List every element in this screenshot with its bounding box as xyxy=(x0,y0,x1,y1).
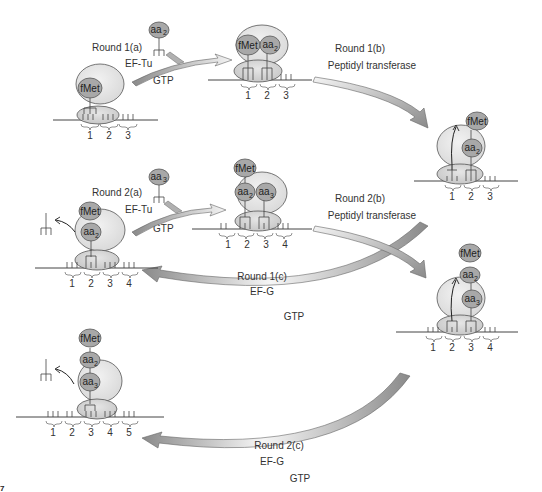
svg-text:fMet: fMet xyxy=(235,163,255,174)
round-2b-label: Round 2(b) xyxy=(335,193,385,204)
svg-text:2: 2 xyxy=(95,232,99,239)
svg-text:2: 2 xyxy=(274,45,278,52)
state-7-translocated: fMet aa 2 aa 3 1 2 3 4 5 xyxy=(16,329,164,438)
svg-text:1: 1 xyxy=(225,239,231,250)
ef-tu-label: EF-Tu xyxy=(125,58,152,69)
svg-text:3: 3 xyxy=(283,90,289,101)
codon-number: 1 xyxy=(87,130,93,141)
ef-tu-label: EF-Tu xyxy=(125,204,152,215)
svg-text:aa: aa xyxy=(464,293,476,304)
round-2c-step: Round 2(c) EF-G GTP xyxy=(142,373,410,484)
round-1a-label: Round 1(a) xyxy=(92,42,142,53)
peptidyl-transferase-label: Peptidyl transferase xyxy=(328,60,417,71)
released-trna xyxy=(41,359,74,384)
round-1c-label: Round 1(c) xyxy=(237,271,286,282)
svg-text:fMet: fMet xyxy=(238,40,258,51)
codon-number: 2 xyxy=(106,130,112,141)
svg-text:1: 1 xyxy=(430,342,436,353)
peptidyl-transferase-label: Peptidyl transferase xyxy=(328,210,417,221)
released-trna xyxy=(41,213,75,235)
svg-text:fMet: fMet xyxy=(467,116,487,127)
svg-text:2: 2 xyxy=(468,191,474,202)
svg-text:aa: aa xyxy=(150,24,162,35)
svg-text:2: 2 xyxy=(264,90,270,101)
svg-text:3: 3 xyxy=(487,191,493,202)
svg-text:fMet: fMet xyxy=(460,248,480,259)
svg-text:2: 2 xyxy=(69,427,75,438)
svg-text:aa: aa xyxy=(262,39,274,50)
arrow-round-2c xyxy=(142,373,410,448)
arrow-round-1b xyxy=(313,77,428,128)
svg-text:aa: aa xyxy=(462,269,474,280)
state-4-translocated: fMet aa 2 1 2 3 4 xyxy=(35,202,158,289)
svg-text:2: 2 xyxy=(249,192,253,199)
round-1b-label: Round 1(b) xyxy=(335,43,385,54)
svg-text:1: 1 xyxy=(449,191,455,202)
svg-text:aa: aa xyxy=(83,226,95,237)
svg-text:aa: aa xyxy=(82,354,94,365)
svg-text:3: 3 xyxy=(263,239,269,250)
svg-text:5: 5 xyxy=(126,427,132,438)
ribosome-small-subunit xyxy=(234,60,282,82)
svg-text:2: 2 xyxy=(163,29,167,36)
fmet-label: fMet xyxy=(80,83,100,94)
svg-text:3: 3 xyxy=(163,176,167,183)
svg-text:fMet: fMet xyxy=(80,333,100,344)
ef-g-label: EF-G xyxy=(250,286,274,297)
svg-text:3: 3 xyxy=(270,192,274,199)
state-3-peptide-bond-formed: fMet aa 2 1 2 3 xyxy=(414,112,518,202)
svg-text:3: 3 xyxy=(107,278,113,289)
svg-text:aa: aa xyxy=(150,171,162,182)
ribosome-small-subunit xyxy=(77,399,117,419)
svg-text:3: 3 xyxy=(476,299,480,306)
ribosome-small-subunit xyxy=(235,211,281,231)
svg-text:2: 2 xyxy=(244,239,250,250)
ef-g-label: EF-G xyxy=(260,456,284,467)
svg-text:aa: aa xyxy=(464,142,476,153)
svg-text:4: 4 xyxy=(126,278,132,289)
round-2a-label: Round 2(a) xyxy=(92,187,142,198)
ribosome-small-subunit xyxy=(75,250,119,270)
svg-text:3: 3 xyxy=(468,342,474,353)
svg-text:1: 1 xyxy=(245,90,251,101)
svg-text:aa: aa xyxy=(82,376,94,387)
gtp-label: GTP xyxy=(290,473,311,484)
svg-text:3: 3 xyxy=(94,382,98,389)
svg-text:2: 2 xyxy=(94,360,98,367)
state-1-initiation-complex: fMet 1 2 3 xyxy=(53,64,158,141)
translation-elongation-diagram: fMet 1 2 3 Round 1(a) EF-Tu GTP aa 2 xyxy=(0,0,542,492)
svg-text:aa: aa xyxy=(237,186,249,197)
svg-text:2: 2 xyxy=(474,275,478,282)
svg-text:3: 3 xyxy=(88,427,94,438)
gtp-label: GTP xyxy=(284,311,305,322)
svg-text:1: 1 xyxy=(50,427,56,438)
svg-text:4: 4 xyxy=(282,239,288,250)
codon-number: 3 xyxy=(125,130,131,141)
svg-text:2: 2 xyxy=(88,278,94,289)
svg-text:1: 1 xyxy=(69,278,75,289)
svg-text:fMet: fMet xyxy=(80,206,100,217)
round-1b-step: Round 1(b) Peptidyl transferase xyxy=(313,43,428,128)
svg-text:2: 2 xyxy=(476,148,480,155)
svg-text:aa: aa xyxy=(258,186,270,197)
round-2c-label: Round 2(c) xyxy=(254,440,303,451)
svg-text:2: 2 xyxy=(449,342,455,353)
svg-text:4: 4 xyxy=(107,427,113,438)
figure-number-fragment: 7 xyxy=(0,484,5,492)
svg-text:4: 4 xyxy=(487,342,493,353)
